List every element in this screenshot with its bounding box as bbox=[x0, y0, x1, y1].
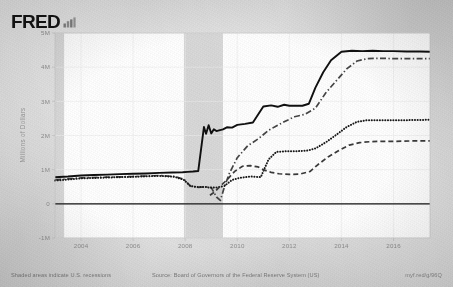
x-tick-label: 2006 bbox=[126, 242, 141, 249]
y-tick-label: 4M bbox=[41, 63, 50, 70]
x-tick-label: 2010 bbox=[230, 242, 245, 249]
y-axis-title: Millions of Dollars bbox=[19, 107, 26, 162]
bar-chart-icon bbox=[63, 17, 76, 28]
x-tick-label: 2004 bbox=[74, 242, 89, 249]
x-axis-labels: 2004200620082010201220142016 bbox=[74, 238, 401, 249]
x-tick-label: 2008 bbox=[178, 242, 193, 249]
y-tick-label: 2M bbox=[41, 132, 50, 139]
y-tick-label: 1M bbox=[41, 166, 50, 173]
fred-chart: 5M4M3M2M1M0-1M 2004200620082010201220142… bbox=[0, 0, 453, 287]
source-note: Source: Board of Governors of the Federa… bbox=[152, 272, 319, 278]
x-tick-label: 2014 bbox=[334, 242, 349, 249]
recessions-note: Shaded areas indicate U.S. recessions bbox=[11, 272, 111, 278]
y-tick-label: 0 bbox=[46, 200, 50, 207]
chart-svg: 5M4M3M2M1M0-1M 2004200620082010201220142… bbox=[0, 0, 453, 287]
fred-wordmark: FRED bbox=[11, 13, 60, 30]
fred-logo[interactable]: FRED bbox=[11, 13, 76, 30]
x-tick-label: 2016 bbox=[386, 242, 401, 249]
y-axis-labels: 5M4M3M2M1M0-1M bbox=[39, 29, 55, 241]
y-tick-label: -1M bbox=[39, 234, 50, 241]
permalink-note[interactable]: myf.red/g/96Q bbox=[405, 272, 442, 278]
y-tick-label: 3M bbox=[41, 98, 50, 105]
x-tick-label: 2012 bbox=[282, 242, 297, 249]
